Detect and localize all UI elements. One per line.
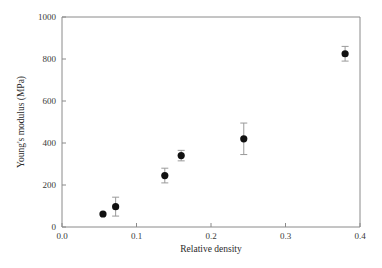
- data-point-1: [112, 203, 119, 210]
- scatter-plot: 0.00.10.20.30.402004006008001000Relative…: [0, 0, 382, 268]
- x-tick-label-0.4: 0.4: [354, 231, 366, 241]
- data-point-5: [342, 50, 349, 57]
- y-tick-label-0: 0: [52, 222, 57, 232]
- y-tick-label-600: 600: [43, 96, 57, 106]
- x-tick-label-0.1: 0.1: [131, 231, 142, 241]
- data-point-3: [178, 152, 185, 159]
- y-axis-title: Young's modulus (MPa): [16, 76, 27, 168]
- x-axis-title: Relative density: [180, 244, 242, 254]
- x-tick-label-0.0: 0.0: [56, 231, 68, 241]
- data-point-2: [161, 172, 168, 179]
- data-point-4: [240, 135, 247, 142]
- y-tick-label-800: 800: [43, 54, 57, 64]
- y-tick-label-1000: 1000: [38, 12, 57, 22]
- x-tick-label-0.2: 0.2: [205, 231, 216, 241]
- y-tick-label-200: 200: [43, 180, 57, 190]
- data-point-0: [99, 210, 106, 217]
- figure-container: 0.00.10.20.30.402004006008001000Relative…: [0, 0, 382, 268]
- y-tick-label-400: 400: [43, 138, 57, 148]
- plot-frame: [62, 17, 360, 227]
- x-tick-label-0.3: 0.3: [280, 231, 292, 241]
